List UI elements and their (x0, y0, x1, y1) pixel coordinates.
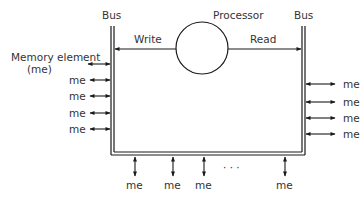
read-label: Read (250, 33, 276, 45)
left-me-label: me (69, 107, 86, 119)
right-me-label: me (343, 112, 360, 124)
bottom-memory-elements: me me me · · · me (126, 157, 293, 191)
left-me-label: me (69, 90, 86, 102)
processor-label: Processor (213, 9, 264, 21)
bottom-me-label: me (276, 179, 293, 191)
bus-right (302, 26, 305, 155)
right-memory-elements: me me me me (306, 78, 360, 140)
right-me-label: me (343, 128, 360, 140)
processor-circle (176, 22, 228, 74)
right-me-label: me (343, 96, 360, 108)
bus-bottom (111, 152, 305, 155)
bus-right-label: Bus (294, 9, 313, 21)
right-me-label: me (343, 78, 360, 90)
ellipsis: · · · (223, 161, 240, 173)
left-memory-elements: me me me me (69, 74, 110, 135)
memory-element-abbrev: (me) (27, 63, 52, 75)
bottom-me-label: me (126, 179, 143, 191)
left-me-label: me (69, 74, 86, 86)
bottom-me-label: me (195, 179, 212, 191)
memory-element-label: Memory element (11, 51, 100, 63)
bottom-me-label: me (164, 179, 181, 191)
processor-bus-memory-diagram: Bus Processor Bus Write Read Memory elem… (0, 0, 364, 198)
bus-left-label: Bus (102, 9, 121, 21)
bus-left (111, 26, 114, 155)
left-me-label: me (69, 123, 86, 135)
write-label: Write (134, 33, 162, 45)
